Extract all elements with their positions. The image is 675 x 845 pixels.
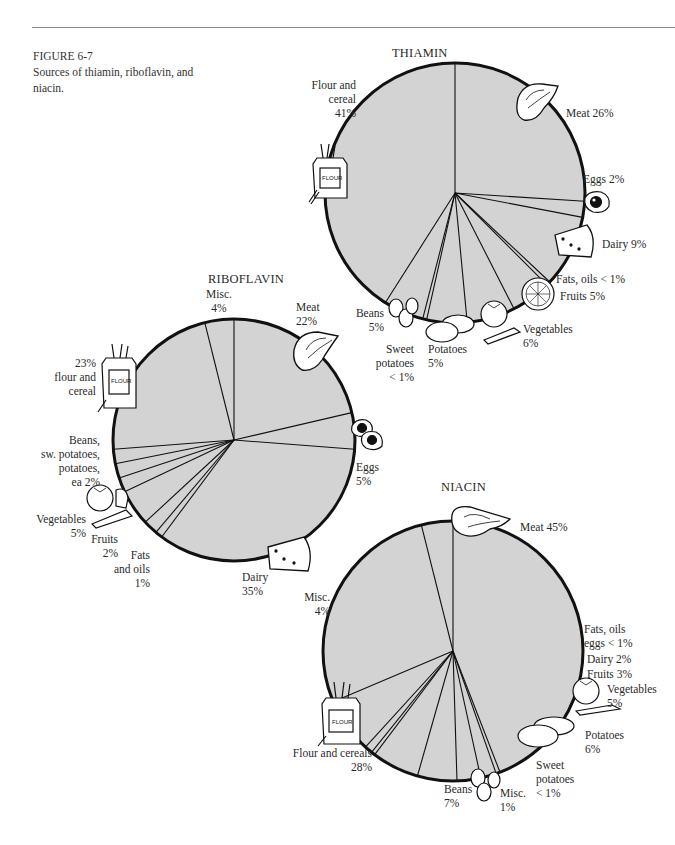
riboflavin-title: RIBOFLAVIN (208, 272, 284, 287)
niacin-label-vegetables: Vegetables 5% (607, 682, 657, 710)
niacin-label-sweet-potatoes: Sweet potatoes < 1% (536, 758, 574, 800)
riboflavin-label-dairy: Dairy 35% (242, 570, 268, 598)
thiamin-label-eggs: Eggs 2% (583, 172, 624, 186)
niacin-title: NIACIN (441, 480, 486, 495)
riboflavin-label-meat: Meat 22% (296, 300, 320, 328)
riboflavin-label-fats: Fats and oils 1% (100, 548, 150, 590)
niacin-label-flour: Flour and cereals 28% (276, 746, 372, 774)
fried-egg-icon (585, 192, 610, 213)
svg-text:FLOUR: FLOUR (322, 175, 343, 181)
riboflavin-label-vegetables: Vegetables 5% (20, 512, 86, 540)
riboflavin-label-eggs: Eggs 5% (356, 460, 379, 488)
niacin-label-potatoes: Potatoes 6% (585, 728, 624, 756)
niacin-label-misc-4: Misc. 4% (290, 590, 330, 618)
riboflavin-label-flour: 23% flour and cereal (30, 356, 96, 398)
thiamin-label-meat: Meat 26% (566, 106, 614, 120)
niacin-label-dairy: Dairy 2% (587, 652, 631, 666)
thiamin-label-potatoes: Potatoes 5% (428, 342, 467, 370)
svg-text:FLOUR: FLOUR (332, 719, 353, 725)
citrus-slice-icon (522, 278, 554, 310)
thiamin-label-fats: Fats, oils < 1% (556, 272, 625, 286)
thiamin-label-beans: Beans 5% (344, 306, 384, 334)
thiamin-label-flour: Flour and cereal 41% (296, 78, 356, 120)
niacin-label-fats: Fats, oils eggs < 1% (584, 622, 633, 650)
thiamin-label-fruits: Fruits 5% (560, 289, 605, 303)
steak-icon (294, 332, 338, 370)
niacin-label-beans: Beans 7% (444, 782, 472, 810)
tomato-carrot-icon (87, 485, 132, 528)
svg-text:FLOUR: FLOUR (111, 378, 132, 384)
niacin-label-misc-1: Misc. 1% (500, 786, 526, 814)
flour-bag-icon: FLOUR (98, 344, 136, 412)
thiamin-title: THIAMIN (392, 46, 448, 61)
niacin-label-meat: Meat 45% (520, 520, 568, 534)
thiamin-label-sweet-potatoes: Sweet potatoes < 1% (364, 342, 414, 384)
niacin-label-fruits: Fruits 3% (587, 667, 632, 681)
riboflavin-label-misc: Misc. 4% (206, 287, 232, 315)
thiamin-label-vegetables: Vegetables 6% (523, 322, 573, 350)
pie-charts: FLOUR FLOUR (0, 0, 675, 845)
riboflavin-label-grouped: Beans, sw. potatoes, potatoes, ea 2% (10, 433, 100, 489)
thiamin-label-dairy: Dairy 9% (602, 237, 646, 251)
